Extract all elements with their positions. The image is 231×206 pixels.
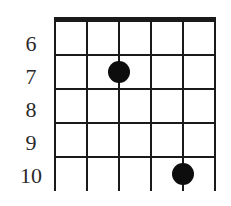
fret-number-labels: 6 7 8 9 10 xyxy=(20,31,42,188)
fret-label-7: 7 xyxy=(26,64,37,89)
top-fret-bar xyxy=(54,17,216,22)
fret-label-8: 8 xyxy=(26,97,37,122)
fretboard-grid xyxy=(54,17,216,191)
fret-label-6: 6 xyxy=(26,31,37,56)
finger-dot-string-5-fret-10 xyxy=(172,163,194,185)
fret-label-10: 10 xyxy=(20,163,42,188)
chord-diagram: 6 7 8 9 10 xyxy=(0,0,231,206)
finger-dot-string-3-fret-7 xyxy=(108,61,130,83)
fret-label-9: 9 xyxy=(26,130,37,155)
